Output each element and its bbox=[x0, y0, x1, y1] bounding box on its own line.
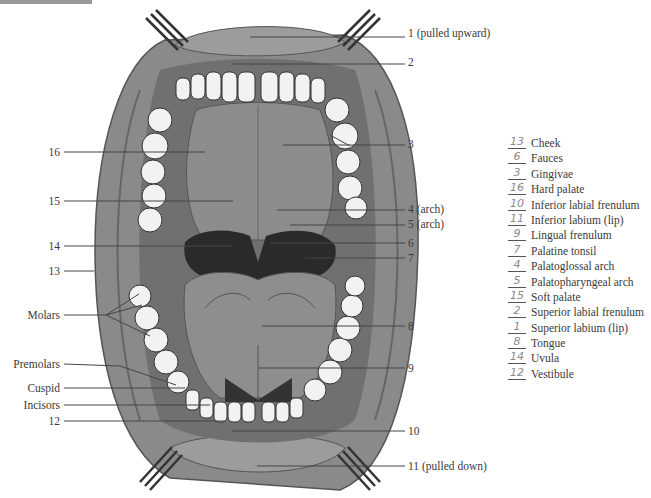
callout-premolars: Premolars bbox=[13, 358, 60, 371]
answer-blank[interactable]: 14 bbox=[508, 351, 526, 364]
legend-term: Uvula bbox=[531, 351, 559, 366]
answer-blank[interactable]: 4 bbox=[508, 259, 526, 272]
legend-term: Inferior labial frenulum bbox=[531, 198, 640, 213]
answer-blank[interactable]: 13 bbox=[508, 136, 526, 149]
legend-term: Vestibule bbox=[531, 367, 574, 382]
legend-term: Palatoglossal arch bbox=[531, 259, 614, 274]
legend-term: Cheek bbox=[531, 136, 560, 151]
legend-term: Palatine tonsil bbox=[531, 244, 596, 259]
answer-blank[interactable]: 15 bbox=[508, 290, 526, 303]
callout-9: 9 bbox=[408, 362, 414, 375]
legend-term: Superior labial frenulum bbox=[531, 305, 644, 320]
callout-1: 1 (pulled upward) bbox=[408, 27, 490, 40]
callout-12: 12 bbox=[49, 415, 61, 428]
callout-8: 8 bbox=[408, 320, 414, 333]
callout-5: 5 (arch) bbox=[408, 218, 444, 231]
answer-blank[interactable]: 7 bbox=[508, 244, 526, 257]
callout-7: 7 bbox=[408, 252, 414, 265]
legend-term: Tongue bbox=[531, 336, 565, 351]
legend-term: Hard palate bbox=[531, 182, 584, 197]
legend-term: Inferior labium (lip) bbox=[531, 213, 624, 228]
callout-6: 6 bbox=[408, 237, 414, 250]
legend-term: Gingivae bbox=[531, 167, 573, 182]
answer-blank[interactable]: 10 bbox=[508, 198, 526, 211]
callout-4: 4 (arch) bbox=[408, 203, 444, 216]
callout-10: 10 bbox=[408, 425, 420, 438]
callout-3: 3 bbox=[408, 138, 414, 151]
callout-molars: Molars bbox=[27, 309, 60, 322]
legend-term: Soft palate bbox=[531, 290, 581, 305]
callout-cuspid: Cuspid bbox=[27, 382, 60, 395]
callout-incisors: Incisors bbox=[24, 399, 60, 412]
legend-term: Superior labium (lip) bbox=[531, 321, 628, 336]
callout-16: 16 bbox=[49, 146, 61, 159]
callout-15: 15 bbox=[49, 195, 61, 208]
answer-blank[interactable]: 1 bbox=[508, 321, 526, 334]
callout-13: 13 bbox=[49, 265, 61, 278]
answer-blank[interactable]: 11 bbox=[508, 213, 526, 226]
answer-blank[interactable]: 12 bbox=[508, 367, 526, 380]
legend-term: Fauces bbox=[531, 151, 563, 166]
callout-14: 14 bbox=[49, 240, 61, 253]
callout-11: 11 (pulled down) bbox=[408, 460, 487, 473]
callout-2: 2 bbox=[408, 56, 414, 69]
answer-blank[interactable]: 8 bbox=[508, 336, 526, 349]
answer-blank[interactable]: 2 bbox=[508, 305, 526, 318]
legend-term: Lingual frenulum bbox=[531, 228, 612, 243]
answer-blank[interactable]: 5 bbox=[508, 275, 526, 288]
answer-blank[interactable]: 16 bbox=[508, 182, 526, 195]
answer-blank[interactable]: 9 bbox=[508, 228, 526, 241]
legend-term: Palatopharyngeal arch bbox=[531, 275, 634, 290]
answer-blank[interactable]: 3 bbox=[508, 167, 526, 180]
answer-blank[interactable]: 6 bbox=[508, 151, 526, 164]
